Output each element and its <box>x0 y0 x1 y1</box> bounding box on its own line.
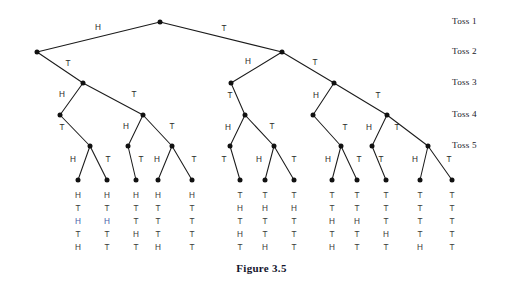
branch-label-t: T <box>291 155 296 164</box>
outcome-letter: H <box>75 243 81 252</box>
outcome-letter: T <box>155 217 160 226</box>
tree-node <box>280 50 285 55</box>
outcome-letter: T <box>417 191 422 200</box>
outcome-letter: T <box>354 191 359 200</box>
tree-leaf-node <box>76 178 81 183</box>
tree-leaf-node <box>238 178 243 183</box>
outcome-letter: H <box>189 191 195 200</box>
tree-leaf-node <box>134 178 139 183</box>
toss-stage-labels-group: Toss 1Toss 2Toss 3Toss 4Toss 5 <box>452 16 477 150</box>
tree-node <box>272 144 277 149</box>
tree-node <box>426 144 431 149</box>
tree-leaf-node <box>418 178 423 183</box>
outcome-letter: T <box>237 243 242 252</box>
outcome-letter: T <box>449 217 454 226</box>
tree-edge-h <box>231 52 282 83</box>
branch-label-t: T <box>59 123 64 132</box>
tree-node <box>158 20 163 25</box>
outcome-letter: H <box>262 204 268 213</box>
tree-edge-t <box>172 146 192 180</box>
outcome-letter: H <box>237 230 243 239</box>
branch-label-h: H <box>313 91 319 100</box>
tree-node <box>385 113 390 118</box>
outcome-letter: T <box>262 230 267 239</box>
outcome-letter: T <box>104 204 109 213</box>
branch-label-h: H <box>59 90 65 99</box>
tree-edges-group <box>37 22 452 180</box>
outcome-letter: H <box>133 230 139 239</box>
tree-node <box>126 144 131 149</box>
branch-label-t: T <box>312 58 317 67</box>
branch-label-t: T <box>131 90 136 99</box>
outcome-letter: T <box>329 230 334 239</box>
outcome-letter: T <box>449 243 454 252</box>
stage-label-toss-5: Toss 5 <box>452 140 477 150</box>
outcome-letter: T <box>189 204 194 213</box>
branch-label-t: T <box>356 155 361 164</box>
tree-edge-t <box>341 146 357 180</box>
outcome-letter: T <box>354 230 359 239</box>
outcome-letter: H <box>104 217 110 226</box>
outcome-letter: H <box>133 191 139 200</box>
stage-label-toss-4: Toss 4 <box>452 109 477 119</box>
outcome-letter: T <box>417 204 422 213</box>
stage-label-toss-2: Toss 2 <box>452 46 477 56</box>
outcome-letter: T <box>291 191 296 200</box>
tree-node <box>370 144 375 149</box>
branch-label-t: T <box>65 59 70 68</box>
tree-node <box>141 113 146 118</box>
outcome-letter: H <box>383 230 389 239</box>
tree-edge-h <box>372 115 387 146</box>
branch-label-h: H <box>123 122 129 131</box>
tree-leaf-node <box>105 178 110 183</box>
tree-edge-t <box>282 52 334 83</box>
tree-leaf-node <box>263 178 268 183</box>
tree-edge-t <box>230 146 240 180</box>
outcome-letter: T <box>417 230 422 239</box>
tree-leaf-node <box>384 178 389 183</box>
outcome-letter: H <box>155 191 161 200</box>
branch-label-t: T <box>446 155 451 164</box>
tree-leaf-node <box>355 178 360 183</box>
figure-3-5-tree-diagram: HTTHTHTTHTTHTHTTHTHTTHTTHTHTTHT HTHTHHTH… <box>0 0 523 291</box>
branch-label-t: T <box>342 123 347 132</box>
branch-label-h: H <box>225 123 231 132</box>
outcome-letter: T <box>329 204 334 213</box>
coin-toss-tree-canvas: HTTHTHTTHTTHTHTTHTHTTHTTHTHTTHT HTHTHHTH… <box>0 0 523 291</box>
outcome-letter: T <box>291 230 296 239</box>
tree-leaf-node <box>292 178 297 183</box>
outcome-letter: T <box>449 230 454 239</box>
outcome-letter: T <box>291 217 296 226</box>
tree-leaf-node <box>190 178 195 183</box>
outcome-letter: T <box>104 230 109 239</box>
branch-label-t: T <box>221 155 226 164</box>
outcome-letter: T <box>354 204 359 213</box>
outcome-letter: H <box>155 243 161 252</box>
outcome-letter: T <box>75 230 80 239</box>
outcome-letter: T <box>417 217 422 226</box>
outcome-letter: T <box>262 191 267 200</box>
tree-node <box>332 81 337 86</box>
outcome-letter: T <box>189 230 194 239</box>
tree-edge-t <box>231 83 245 115</box>
tree-edge-t <box>387 115 428 146</box>
branch-label-t: T <box>378 155 383 164</box>
tree-leaf-node <box>156 178 161 183</box>
outcome-letter: T <box>104 243 109 252</box>
outcome-letter: H <box>262 243 268 252</box>
branch-label-t: T <box>138 155 143 164</box>
branch-label-t: T <box>227 91 232 100</box>
branch-label-t: T <box>394 123 399 132</box>
tree-node <box>243 113 248 118</box>
outcome-letter: T <box>237 191 242 200</box>
outcome-letter: H <box>417 243 423 252</box>
branch-label-h: H <box>412 155 418 164</box>
tree-node <box>170 144 175 149</box>
outcome-letter: T <box>155 204 160 213</box>
outcome-letter: T <box>155 230 160 239</box>
tree-edge-h <box>78 146 90 180</box>
branch-label-h: H <box>325 155 331 164</box>
tree-node <box>229 81 234 86</box>
outcome-letter: T <box>383 204 388 213</box>
tree-edge-h <box>158 146 172 180</box>
